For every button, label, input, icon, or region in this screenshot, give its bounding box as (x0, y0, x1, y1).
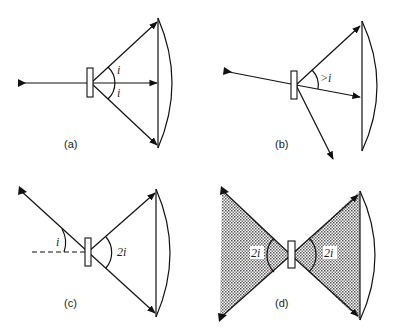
angle-label-bottom: i (117, 86, 120, 100)
arrow-tail-icon (218, 313, 227, 322)
slit (288, 241, 295, 268)
panel-d: 2i 2i (d) (218, 186, 375, 322)
transmitted-ray (296, 85, 360, 97)
diffraction-diagram: i i (a) >i (b) i 2i (c) (0, 0, 396, 333)
screen-arc (362, 21, 377, 151)
screen-arc (156, 189, 170, 317)
arrow-tail-icon (18, 79, 26, 87)
angle-label-right: 2i (324, 246, 333, 260)
transmitted-ray (88, 252, 155, 313)
incidence-angle-label: i (56, 235, 59, 249)
panel-label-b: (b) (275, 138, 288, 150)
incident-ray (224, 71, 296, 85)
panel-a: i i (a) (18, 18, 172, 150)
diffracted-ray-top (88, 193, 155, 252)
panel-label-d: (d) (275, 297, 288, 309)
incident-ray (20, 190, 88, 252)
arrow-tail-icon (223, 67, 232, 75)
incidence-angle-arc (62, 229, 66, 252)
angle-label: 2i (117, 245, 126, 259)
panel-label-a: (a) (64, 138, 77, 150)
angle-label-top: i (117, 63, 120, 77)
slit (85, 238, 91, 266)
screen-arc (158, 18, 172, 148)
arrow-tail-icon (18, 186, 27, 195)
diffracted-ray-top (91, 22, 157, 83)
panel-b: >i (b) (223, 21, 377, 159)
screen-arc (360, 191, 375, 320)
angle-arc (106, 237, 112, 268)
slit (87, 68, 93, 97)
angle-label: >i (320, 71, 331, 85)
angle-label-left: 2i (251, 246, 260, 260)
diffracted-ray-bottom (296, 85, 333, 159)
diffracted-ray-bottom (91, 83, 157, 145)
angle-arc (312, 70, 318, 89)
panel-c: i 2i (c) (18, 186, 170, 317)
slit (291, 71, 297, 99)
panel-label-c: (c) (64, 297, 77, 309)
